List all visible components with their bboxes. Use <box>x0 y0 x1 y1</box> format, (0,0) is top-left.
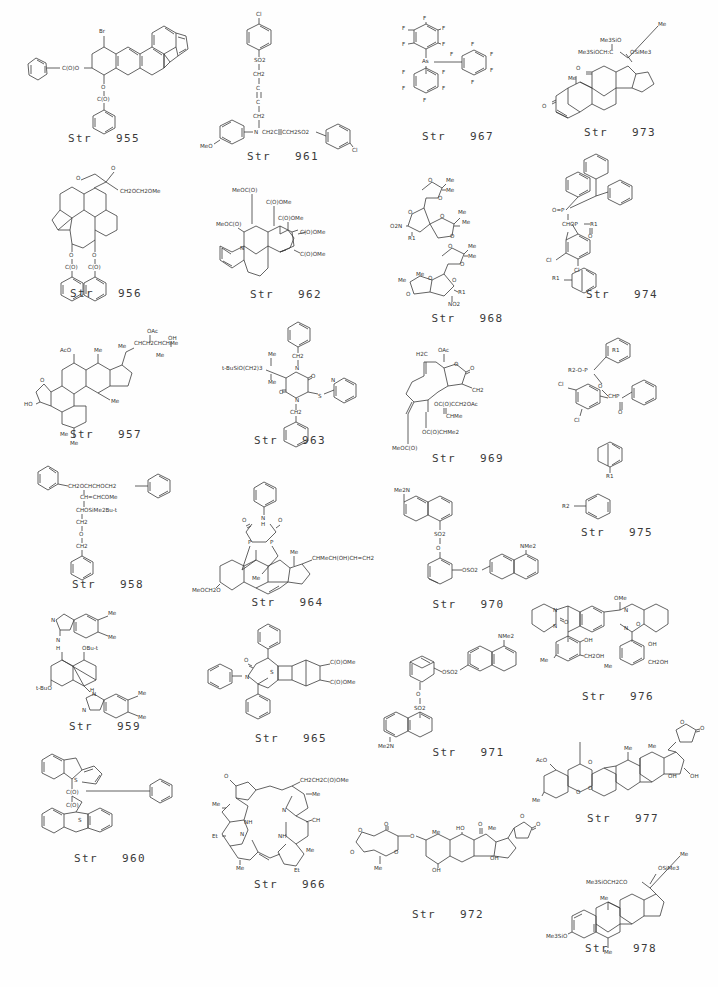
structure-cell-956: O O CH2OCH2OMe O C(O) <box>20 160 192 305</box>
svg-text:Me: Me <box>624 745 633 751</box>
caption-957: Str 957 <box>16 428 196 441</box>
caption-958: Str 958 <box>18 578 198 591</box>
svg-text:OAc: OAc <box>147 328 158 334</box>
caption-967: Str 967 <box>372 130 544 143</box>
svg-text:N: N <box>624 607 628 613</box>
svg-text:Me: Me <box>398 277 407 283</box>
structure-cell-961: Cl SO2 CH2 C C CH2 N <box>192 6 374 166</box>
svg-text:F: F <box>402 85 405 91</box>
structure-drawing-963: CH2 N N O O Me t-BuSiO(CH2)3 Me <box>200 322 380 450</box>
svg-text:O: O <box>576 65 581 71</box>
svg-text:N: N <box>92 691 96 697</box>
svg-text:R1: R1 <box>590 221 598 227</box>
svg-text:O=P: O=P <box>552 207 565 213</box>
caption-965: Str 965 <box>200 732 382 745</box>
structure-cell-973: Me Me3SiO Me3SiOCH:C OSiMe3 O Me <box>530 8 710 148</box>
svg-text:OH: OH <box>168 335 177 341</box>
svg-text:OSO2: OSO2 <box>462 567 478 573</box>
svg-text:O: O <box>410 833 415 839</box>
svg-text:Me: Me <box>118 343 127 349</box>
svg-text:OH: OH <box>648 641 657 647</box>
structure-cell-963: CH2 N N O O Me t-BuSiO(CH2)3 Me <box>200 322 380 450</box>
caption-961: Str 961 <box>192 150 374 163</box>
caption-973: Str 973 <box>530 126 710 139</box>
svg-text:OAc: OAc <box>438 347 449 353</box>
svg-text:O: O <box>428 275 433 281</box>
svg-text:N: N <box>261 515 265 521</box>
svg-text:O: O <box>408 209 413 215</box>
svg-text:R2: R2 <box>562 503 569 509</box>
svg-text:As: As <box>422 58 429 64</box>
svg-text:OSiMe3: OSiMe3 <box>658 865 680 871</box>
svg-text:CH2: CH2 <box>290 409 302 415</box>
svg-text:t-BuSiO(CH2)3: t-BuSiO(CH2)3 <box>222 365 263 371</box>
caption-975: Str 975 <box>524 526 710 539</box>
svg-text:F: F <box>402 25 405 31</box>
structure-drawing-957: O HO Me Me Me Me AcO Me CHCH2CHCHMe <box>16 318 196 446</box>
svg-text:Me: Me <box>648 743 657 749</box>
structure-cell-959: N N H Me Me OBu-t t-BuO <box>20 604 190 740</box>
svg-text:OH: OH <box>690 773 699 779</box>
svg-text:N: N <box>553 623 557 629</box>
caption-978: Str 978 <box>528 942 714 955</box>
svg-text:Me3SiOCH2CO: Me3SiOCH2CO <box>586 879 628 885</box>
svg-text:O: O <box>448 243 453 249</box>
svg-text:Me: Me <box>312 791 321 797</box>
structure-cell-976: OMe N N O N N <box>520 586 716 714</box>
svg-text:OH: OH <box>432 867 441 873</box>
svg-text:R1: R1 <box>408 235 416 241</box>
svg-text:N: N <box>82 707 86 713</box>
structure-cell-964: N H O O P P Me <box>190 480 385 616</box>
svg-text:F: F <box>402 69 405 75</box>
svg-text:HO: HO <box>24 401 33 407</box>
svg-text:C(O)OMe: C(O)OMe <box>300 229 326 235</box>
svg-text:CH: CH <box>312 817 320 823</box>
svg-text:CHCH2CHCHMe: CHCH2CHCHMe <box>134 340 179 346</box>
svg-text:C(O): C(O) <box>97 96 110 102</box>
svg-text:CHOP: CHOP <box>562 221 579 227</box>
svg-text:CHMe: CHMe <box>446 413 463 419</box>
svg-text:S: S <box>74 777 78 783</box>
svg-text:O: O <box>242 517 247 523</box>
svg-text:H: H <box>90 687 94 693</box>
svg-text:Cl: Cl <box>574 267 580 273</box>
svg-text:Me: Me <box>108 610 117 616</box>
svg-text:Me: Me <box>568 75 577 81</box>
structure-cell-978: Me OSiMe3 Me3SiOCH2CO Me Me3SiO <box>528 838 714 968</box>
svg-text:S: S <box>318 393 322 399</box>
svg-text:C(O): C(O) <box>65 264 78 270</box>
svg-text:Cl: Cl <box>558 381 564 387</box>
svg-text:CH2: CH2 <box>76 543 88 549</box>
svg-text:N: N <box>240 245 244 251</box>
svg-text:CH2OH: CH2OH <box>584 653 604 659</box>
svg-text:NMe2: NMe2 <box>498 633 514 639</box>
svg-text:O: O <box>470 365 475 371</box>
svg-text:CH2: CH2 <box>472 387 484 393</box>
svg-text:H: H <box>261 521 265 527</box>
svg-text:CH2: CH2 <box>76 519 88 525</box>
structure-cell-955: C(O)O Br <box>18 6 190 154</box>
structure-drawing-975: R1 R2-O-P O CHP O <box>524 330 710 556</box>
svg-text:O: O <box>598 383 603 389</box>
svg-text:Me: Me <box>446 177 455 183</box>
svg-text:Et: Et <box>212 833 219 839</box>
svg-text:HO: HO <box>456 825 465 831</box>
svg-text:R1: R1 <box>612 347 620 353</box>
svg-text:R1: R1 <box>458 289 466 295</box>
svg-text:O: O <box>542 103 547 109</box>
structure-drawing-965: O N S C(O)OMe <box>200 622 382 750</box>
svg-text:C: C <box>256 99 260 105</box>
svg-text:OSO2: OSO2 <box>442 669 458 675</box>
svg-text:O: O <box>680 719 685 725</box>
caption-974: Str 974 <box>532 288 712 301</box>
svg-text:O: O <box>350 849 355 855</box>
svg-text:F: F <box>490 67 493 73</box>
svg-text:OC(O)CCH2OAc: OC(O)CCH2OAc <box>434 401 478 407</box>
svg-text:Me: Me <box>94 347 103 353</box>
svg-text:N: N <box>245 674 249 680</box>
svg-text:R1: R1 <box>606 473 614 479</box>
svg-text:CH2: CH2 <box>253 113 265 119</box>
caption-959: Str 959 <box>20 720 190 733</box>
svg-text:O: O <box>636 621 641 627</box>
svg-text:O: O <box>416 691 421 697</box>
